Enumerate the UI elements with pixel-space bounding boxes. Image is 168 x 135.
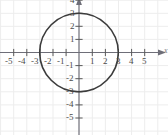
- x-tick-label--4: -4: [18, 57, 26, 66]
- x-tick-label-1: 1: [90, 57, 95, 66]
- y-tick-label--4: -4: [66, 100, 74, 109]
- y-tick-label-4: 4: [70, 0, 75, 5]
- x-axis-name-label: x: [164, 46, 168, 55]
- x-tick-label--2: -2: [44, 57, 52, 66]
- x-axis: [0, 49, 166, 55]
- grid-lines: [0, 0, 168, 135]
- x-tick-label-2: 2: [103, 57, 108, 66]
- y-tick-label-1: 1: [70, 35, 75, 44]
- x-tick-label--1: -1: [57, 57, 65, 66]
- y-tick-label-2: 2: [70, 22, 75, 31]
- y-tick-label-3: 3: [70, 9, 75, 18]
- y-tick-label--1: -1: [66, 61, 74, 70]
- x-tick-label--3: -3: [31, 57, 39, 66]
- y-tick-label--3: -3: [66, 87, 74, 96]
- graph-canvas: [0, 0, 168, 135]
- y-tick-label--2: -2: [66, 74, 74, 83]
- x-tick-label--5: -5: [5, 57, 13, 66]
- y-tick-label--5: -5: [66, 113, 74, 122]
- x-tick-label-3: 3: [116, 57, 121, 66]
- x-tick-label-4: 4: [129, 57, 134, 66]
- x-tick-label-5: 5: [142, 57, 147, 66]
- y-axis-arrow-icon: [76, 0, 82, 5]
- coordinate-plane-figure: -5 -4 -3 -2 -1 1 2 3 4 5 4 3 2 1 -1 -2 -…: [0, 0, 168, 135]
- y-axis: [76, 0, 82, 135]
